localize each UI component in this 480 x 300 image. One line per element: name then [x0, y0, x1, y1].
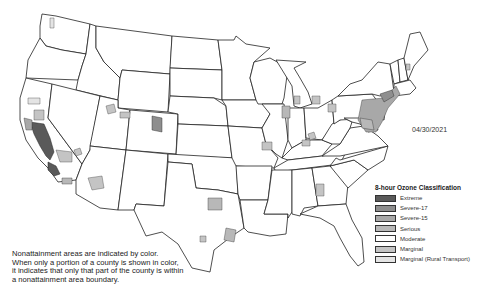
legend-swatch-extreme	[375, 195, 396, 202]
area-chicago	[282, 106, 290, 118]
state-new-york	[338, 62, 394, 96]
legend-label: Severe-15	[400, 215, 428, 221]
note-line: a nonattainment area boundary.	[12, 276, 282, 285]
area-ca-north	[28, 98, 40, 104]
area-detroit	[312, 96, 320, 104]
legend-swatch-moderate	[375, 235, 396, 242]
area-seattle	[50, 18, 54, 28]
legend-swatch-marginal	[375, 246, 396, 253]
legend-item-extreme: Extreme	[375, 193, 480, 203]
area-houston	[224, 228, 236, 242]
area-denver	[152, 116, 162, 132]
legend-item-severe-15: Severe-15	[375, 213, 480, 223]
legend-item-severe-17: Severe-17	[375, 203, 480, 213]
state-south-dakota	[170, 68, 222, 100]
legend-item-marginal: Marginal	[375, 244, 480, 254]
legend-label: Serious	[400, 226, 420, 232]
area-baltimore-dc	[360, 118, 374, 130]
legend-title: 8-hour Ozone Classification	[375, 184, 480, 191]
area-maine-coast	[406, 64, 410, 70]
legend-label: Moderate	[400, 236, 425, 242]
state-north-dakota	[170, 36, 222, 70]
legend-swatch-marginal-rural	[375, 256, 396, 263]
area-salt-lake	[106, 104, 116, 114]
state-arkansas	[236, 166, 272, 200]
legend-label: Extreme	[400, 195, 422, 201]
legend-label: Marginal	[400, 246, 423, 252]
area-uinta	[120, 112, 130, 118]
legend-item-serious: Serious	[375, 224, 480, 234]
legend-swatch-serious	[375, 225, 396, 232]
area-dallas	[208, 198, 222, 210]
legend-swatch-severe-15	[375, 215, 396, 222]
legend-swatch-severe-17	[375, 205, 396, 212]
area-ca-sacramento	[34, 110, 44, 120]
state-kansas	[176, 124, 232, 158]
state-maine	[404, 32, 428, 80]
state-wyoming	[118, 70, 170, 112]
state-outlines	[20, 14, 428, 272]
legend-item-marginal-rural: Marginal (Rural Transport)	[375, 254, 480, 264]
legend: 8-hour Ozone Classification Extreme Seve…	[375, 184, 480, 264]
state-new-mexico	[118, 150, 168, 210]
area-st-louis	[262, 142, 272, 150]
area-cleveland	[328, 104, 336, 112]
area-louisville	[302, 140, 310, 146]
area-atlanta	[316, 184, 324, 196]
legend-item-moderate: Moderate	[375, 234, 480, 244]
legend-label: Marginal (Rural Transport)	[400, 256, 470, 262]
legend-label: Severe-17	[400, 205, 428, 211]
map-date: 04/30/2021	[412, 126, 447, 133]
area-west-michigan	[294, 96, 300, 104]
area-san-antonio	[200, 236, 206, 242]
map-note: Nonattainment areas are indicated by col…	[12, 250, 282, 284]
area-ca-imperial	[62, 178, 72, 184]
state-florida	[300, 204, 364, 266]
